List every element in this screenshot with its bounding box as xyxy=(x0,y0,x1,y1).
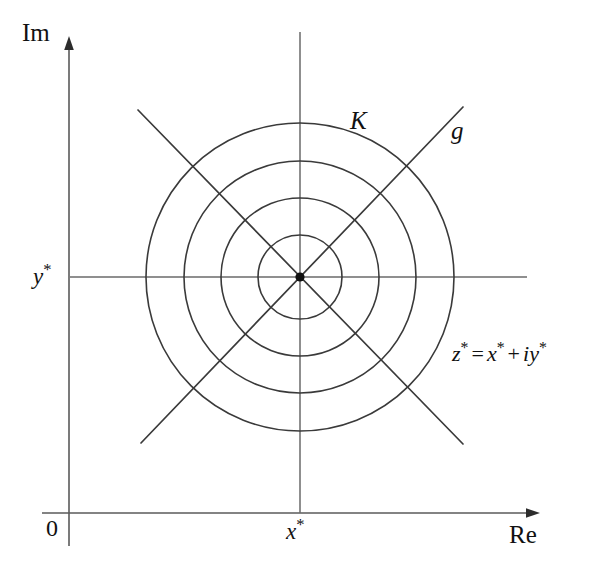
x-star-base: x xyxy=(286,519,296,544)
ray-label-g: g xyxy=(451,118,464,143)
figure-canvas: Im Re 0 y* x* K g z*=x*+iy* xyxy=(0,0,599,572)
equation-lhs-base: z xyxy=(452,341,461,366)
equation-equals: = xyxy=(468,341,486,366)
y-star-tick-label: y* xyxy=(33,262,52,288)
x-star-tick-label: x* xyxy=(286,517,305,543)
equation-rhs1-base: x xyxy=(487,341,497,366)
origin-label: 0 xyxy=(46,516,58,540)
point-z-star xyxy=(295,272,304,281)
imaginary-axis-label: Im xyxy=(22,20,50,45)
real-axis-arrowhead xyxy=(526,508,540,518)
equation-rhs1-star: * xyxy=(497,339,505,356)
complex-plane-diagram xyxy=(0,0,599,572)
z-star-equation-label: z*=x*+iy* xyxy=(452,340,547,365)
equation-rhs2-star: * xyxy=(539,339,547,356)
x-star-superscript: * xyxy=(296,515,304,534)
y-star-superscript: * xyxy=(43,260,51,279)
circle-family-label-k: K xyxy=(350,108,367,133)
equation-plus: + xyxy=(505,341,523,366)
y-star-base: y xyxy=(33,264,43,289)
imaginary-axis-arrowhead xyxy=(64,36,74,50)
equation-rhs2-base: y xyxy=(529,341,539,366)
real-axis-label: Re xyxy=(509,522,537,547)
axis-group xyxy=(42,36,540,546)
guide-line-group xyxy=(70,32,527,513)
